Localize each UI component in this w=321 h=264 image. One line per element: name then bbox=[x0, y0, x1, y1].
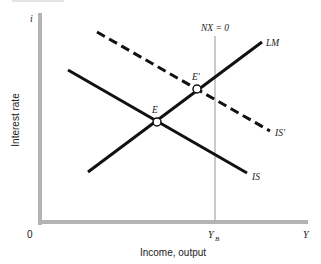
svg-text:Y: Y bbox=[208, 229, 215, 240]
x-axis bbox=[38, 220, 308, 224]
equilibrium-point-e-prime bbox=[193, 85, 201, 93]
x-axis-label: Income, output bbox=[140, 247, 206, 258]
origin-label: 0 bbox=[27, 229, 33, 240]
is-prime-curve bbox=[97, 32, 270, 131]
is-lm-diagram: i Interest rate 0 Y Income, output Y B N… bbox=[0, 0, 321, 264]
is-prime-label: IS′ bbox=[274, 128, 286, 138]
y-axis-label: Interest rate bbox=[10, 93, 21, 147]
nx-zero-label: NX = 0 bbox=[200, 23, 229, 33]
svg-text:B: B bbox=[215, 235, 220, 243]
x-axis-symbol: Y bbox=[303, 229, 310, 240]
point-e-label: E bbox=[151, 105, 158, 115]
cropped-caption bbox=[12, 0, 64, 2]
equilibrium-point-e bbox=[153, 118, 161, 126]
y-axis-symbol: i bbox=[30, 13, 33, 24]
y-axis bbox=[38, 13, 42, 225]
lm-curve bbox=[88, 42, 262, 172]
yb-tick-label: Y B bbox=[208, 229, 220, 243]
lm-label: LM bbox=[265, 38, 280, 48]
point-e-prime-label: E′ bbox=[191, 72, 201, 82]
is-label: IS bbox=[251, 172, 260, 182]
